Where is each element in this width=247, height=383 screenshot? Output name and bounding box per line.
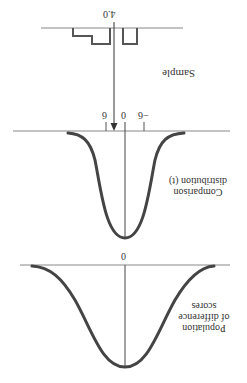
sample-label: Sample	[162, 68, 195, 79]
population-label-line3: scores	[174, 301, 234, 312]
sample-mean-label: 4.0	[103, 9, 116, 19]
comparison-label-line1: Comparison	[162, 187, 234, 198]
comparison-label-line2: distribution (t)	[162, 176, 234, 187]
population-label-line2: of difference	[174, 312, 234, 323]
population-label: Population of difference scores	[174, 301, 234, 334]
arrow-down-icon	[111, 123, 118, 131]
diagram-stage: 4.0 Sample 6 0 −6 Comparison distributio…	[0, 0, 247, 383]
sample-histogram-right	[123, 28, 137, 44]
population-label-line1: Population	[174, 323, 234, 334]
comparison-tick-label-neg6: −6	[138, 110, 149, 120]
sample-histogram-left	[73, 28, 110, 44]
comparison-tick-label-6: 6	[102, 110, 107, 120]
comparison-label: Comparison distribution (t)	[162, 176, 234, 198]
comparison-tick-label-0: 0	[121, 110, 126, 120]
population-center-tick-label: 0	[121, 251, 126, 261]
